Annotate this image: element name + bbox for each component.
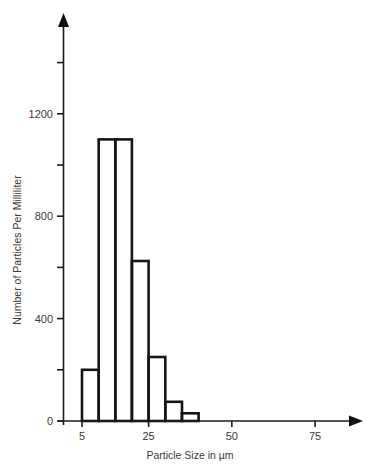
histogram-bar: [132, 261, 149, 421]
histogram-bar: [165, 402, 182, 421]
x-axis-arrow-icon: [349, 416, 363, 427]
x-tick-label: 25: [142, 430, 154, 442]
histogram-bar: [82, 370, 99, 421]
y-axis-arrow-icon: [58, 13, 69, 27]
x-ticks-group: 5255075: [79, 421, 321, 442]
y-tick-label: 0: [47, 415, 53, 427]
x-tick-label: 50: [226, 430, 238, 442]
x-axis-title: Particle Size in µm: [146, 449, 233, 461]
y-tick-label: 800: [35, 210, 53, 222]
histogram-bar: [99, 139, 116, 421]
x-tick-label: 75: [309, 430, 321, 442]
y-axis-title: Number of Particles Per Milliliter: [11, 175, 23, 325]
y-ticks-group: 04008001200: [29, 63, 64, 427]
y-tick-label: 1200: [29, 108, 53, 120]
x-tick-label: 5: [79, 430, 85, 442]
histogram-bar: [182, 413, 199, 421]
histogram-chart: 04008001200 5255075 Particle Size in µm …: [0, 0, 375, 472]
histogram-bar: [149, 357, 166, 421]
histogram-bar: [115, 139, 132, 421]
y-tick-label: 400: [35, 313, 53, 325]
bars-group: [82, 139, 199, 421]
